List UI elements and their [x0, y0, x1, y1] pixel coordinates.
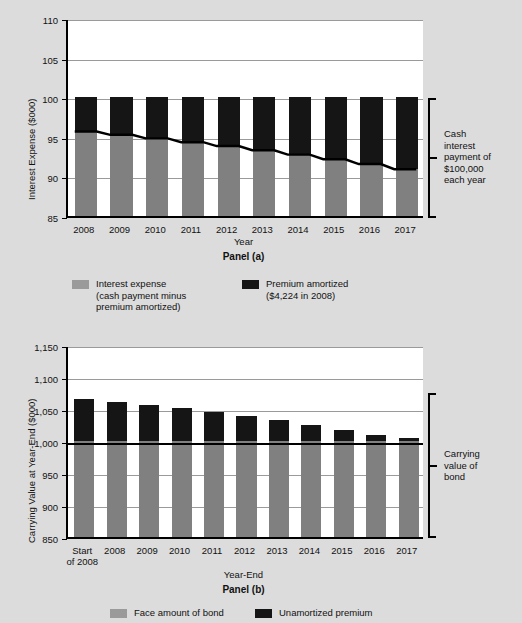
- bar-segment-gray: [253, 150, 275, 216]
- x-tick-label-line: Start: [66, 545, 98, 556]
- x-tick-label-line: 2014: [293, 545, 325, 556]
- bar: [269, 345, 289, 537]
- bar-segment-black: [236, 416, 256, 441]
- bar-segment-black: [139, 405, 159, 441]
- bar-segment-gray: [325, 159, 347, 216]
- y-axis-tick: [62, 507, 67, 508]
- x-tick-label-line: 2011: [173, 224, 209, 235]
- panel-a-callout: Cash interest payment of $100,000 each y…: [444, 128, 514, 186]
- y-axis-tick: [62, 218, 67, 219]
- x-tick-label: 2009: [102, 224, 138, 235]
- bar: [399, 345, 419, 537]
- x-tick-label-line: of 2008: [66, 556, 98, 567]
- bar-segment-gray: [182, 141, 204, 216]
- bar: [360, 18, 382, 216]
- panel-b-legend: Face amount of bond Unamortized premium: [110, 607, 372, 619]
- x-tick-label: 2014: [293, 545, 325, 556]
- legend-a0-line2: (cash payment minus: [96, 290, 186, 302]
- bar-segment-gray: [301, 441, 321, 537]
- panel-a-plot-wrap: Interest Expense ($000) Year Panel (a) C…: [0, 0, 522, 325]
- y-tick-label: 850: [42, 534, 58, 545]
- legend-a1-line2: ($4,224 in 2008): [266, 290, 348, 302]
- bar-segment-black: [396, 97, 418, 169]
- legend-item-unamortized-premium: Unamortized premium: [255, 607, 372, 619]
- x-tick-label: 2015: [326, 545, 358, 556]
- panel-b-label: Panel (b): [66, 584, 421, 595]
- bar-segment-black: [301, 425, 321, 441]
- x-tick-label-line: 2016: [352, 224, 388, 235]
- x-tick-label-line: 2013: [261, 545, 293, 556]
- gray-swatch-icon: [72, 280, 89, 289]
- y-axis-tick: [62, 379, 67, 380]
- bar: [75, 18, 97, 216]
- bar-segment-gray: [396, 169, 418, 216]
- x-tick-label-line: 2014: [280, 224, 316, 235]
- panel-b-y-axis-title: Carrying Value at Year-End ($000): [26, 398, 37, 543]
- x-tick-label-line: 2016: [358, 545, 390, 556]
- y-tick-label: 1,150: [34, 342, 58, 353]
- x-tick-label: 2011: [173, 224, 209, 235]
- legend-b1-line1: Unamortized premium: [279, 607, 372, 619]
- y-axis-tick: [62, 539, 67, 540]
- bar: [325, 18, 347, 216]
- x-tick-label: 2017: [391, 545, 423, 556]
- reference-line: [68, 443, 423, 445]
- x-tick-label-line: 2015: [316, 224, 352, 235]
- bar-segment-gray: [360, 164, 382, 216]
- bar: [172, 345, 192, 537]
- bar: [204, 345, 224, 537]
- legend-label-unamortized-premium: Unamortized premium: [279, 607, 372, 619]
- panel-b-callout-line-2: value of: [444, 460, 514, 472]
- bar-segment-black: [289, 97, 311, 154]
- y-tick-label: 950: [42, 470, 58, 481]
- x-tick-label: 2012: [209, 224, 245, 235]
- x-tick-label-line: 2013: [245, 224, 281, 235]
- y-tick-label: 105: [42, 54, 58, 65]
- x-tick-label: 2015: [316, 224, 352, 235]
- bar-segment-black: [182, 97, 204, 141]
- x-tick-label-line: 2010: [163, 545, 195, 556]
- x-tick-label: 2013: [261, 545, 293, 556]
- x-tick-label: 2012: [228, 545, 260, 556]
- bar-segment-gray: [172, 441, 192, 537]
- bar-segment-gray: [204, 441, 224, 537]
- bar-segment-black: [269, 420, 289, 441]
- figure-canvas: Interest Expense ($000) Year Panel (a) C…: [0, 0, 522, 623]
- bar-segment-gray: [269, 441, 289, 537]
- legend-item-interest-expense: Interest expense (cash payment minus pre…: [72, 278, 242, 313]
- bar-segment-gray: [399, 441, 419, 537]
- y-tick-label: 85: [47, 213, 58, 224]
- bar-segment-gray: [334, 441, 354, 537]
- panel-b-callout: Carrying value of bond: [444, 448, 514, 483]
- panel-a-bracket: [428, 98, 438, 218]
- bar-segment-black: [325, 97, 347, 158]
- y-tick-label: 100: [42, 94, 58, 105]
- gray-swatch-icon: [110, 609, 127, 618]
- y-tick-label: 1,050: [34, 406, 58, 417]
- bar-segment-black: [253, 97, 275, 149]
- panel-a-callout-line-5: each year: [444, 174, 514, 186]
- y-tick-label: 90: [47, 173, 58, 184]
- bar-segment-gray: [366, 441, 386, 537]
- bar-segment-gray: [110, 134, 132, 216]
- bar-segment-black: [399, 438, 419, 441]
- panel-a-callout-line-1: Cash: [444, 128, 514, 140]
- bar: [289, 18, 311, 216]
- panel-a-y-axis-title: Interest Expense ($000): [26, 99, 37, 200]
- bar: [334, 345, 354, 537]
- bar-segment-gray: [75, 131, 97, 216]
- legend-item-face-amount: Face amount of bond: [110, 607, 255, 619]
- bar-segment-black: [172, 408, 192, 441]
- y-axis-tick: [62, 60, 67, 61]
- x-tick-label: 2017: [387, 224, 423, 235]
- bar: [218, 18, 240, 216]
- bar-segment-black: [218, 97, 240, 145]
- y-axis-tick: [62, 347, 67, 348]
- y-axis-tick: [62, 178, 67, 179]
- x-tick-label-line: 2017: [387, 224, 423, 235]
- legend-item-premium-amortized: Premium amortized ($4,224 in 2008): [242, 278, 348, 313]
- x-tick-label-line: 2010: [137, 224, 173, 235]
- y-axis-tick: [62, 443, 67, 444]
- x-tick-label: 2008: [66, 224, 102, 235]
- bar: [236, 345, 256, 537]
